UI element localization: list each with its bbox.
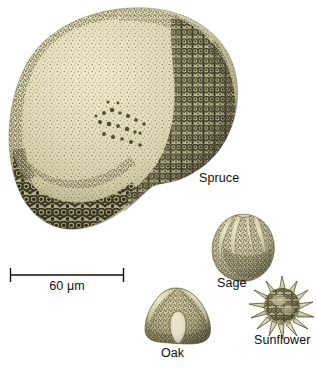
pollen-grain-oak bbox=[138, 282, 218, 352]
pollen-grain-sunflower bbox=[249, 276, 314, 339]
pollen-illustration-plate bbox=[0, 0, 317, 368]
specimen-label-spruce: Spruce bbox=[199, 172, 239, 185]
pollen-comparison-figure: 60 μm Spruce Sage Oak Sunflower bbox=[0, 0, 317, 368]
scale-bar-label: 60 μm bbox=[10, 280, 124, 293]
specimen-label-sage: Sage bbox=[217, 277, 247, 290]
specimen-label-sunflower: Sunflower bbox=[254, 334, 311, 347]
pollen-grain-spruce bbox=[0, 0, 260, 240]
specimen-label-oak: Oak bbox=[161, 347, 184, 360]
